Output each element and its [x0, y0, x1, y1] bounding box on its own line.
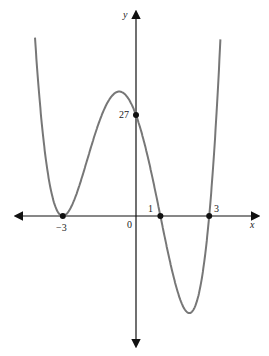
tick-label-1: 1 [148, 203, 153, 214]
function-curve [35, 38, 220, 314]
tick-label-neg3: −3 [56, 222, 67, 233]
graph: y x 0 −3 1 3 27 [0, 0, 269, 356]
tick-label-27: 27 [119, 109, 129, 120]
y-axis-label: y [123, 9, 127, 20]
plot-area [0, 0, 269, 356]
point-marker [157, 213, 163, 219]
x-axis-label: x [250, 219, 254, 230]
point-marker [60, 213, 66, 219]
point-marker [133, 112, 139, 118]
origin-label: 0 [127, 219, 132, 230]
point-marker [206, 213, 212, 219]
tick-label-3: 3 [214, 203, 219, 214]
